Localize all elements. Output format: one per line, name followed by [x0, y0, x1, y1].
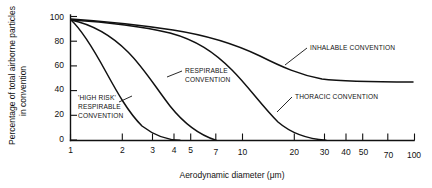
- x-tick-label-30: 30: [320, 147, 330, 157]
- y-tick-label-80: 80: [55, 36, 65, 46]
- y-tick-label-0: 0: [59, 134, 64, 144]
- curve-high-risk-respirable-convention: [71, 20, 180, 140]
- annotation-respirable-convention-line1: RESPIRABLE: [185, 67, 228, 74]
- annotation-inhalable-convention: INHALABLE CONVENTION: [310, 44, 395, 51]
- x-tick-label-50: 50: [359, 147, 369, 157]
- x-tick-label-10: 10: [238, 147, 248, 157]
- annotation-high-risk-line1: 'HIGH RISK': [78, 94, 116, 101]
- chart-figure: Percentage of total airborne particles i…: [0, 0, 432, 188]
- y-axis-ticks: [71, 17, 78, 141]
- leader-line-respirable: [167, 71, 182, 77]
- particle-convention-chart: Percentage of total airborne particles i…: [0, 0, 432, 188]
- y-tick-label-40: 40: [55, 84, 65, 94]
- x-tick-label-3: 3: [150, 145, 155, 155]
- x-tick-label-1: 1: [68, 145, 73, 155]
- annotation-high-risk-line3: CONVENTION: [78, 112, 124, 119]
- x-tick-label-7: 7: [213, 147, 218, 157]
- leader-line-thoracic: [277, 97, 292, 112]
- x-tick-label-5: 5: [188, 145, 193, 155]
- y-axis-label-line2: in convention: [18, 66, 28, 116]
- x-tick-label-70: 70: [384, 150, 394, 160]
- y-tick-label-100: 100: [50, 12, 64, 22]
- y-tick-label-60: 60: [55, 60, 65, 70]
- x-tick-label-2: 2: [120, 145, 125, 155]
- annotation-high-risk-line2: RESPIRABLE: [78, 103, 121, 110]
- x-tick-label-40: 40: [341, 147, 351, 157]
- y-tick-label-20: 20: [55, 109, 65, 119]
- y-axis-label-line1: Percentage of total airborne particles: [7, 6, 17, 145]
- x-tick-label-20: 20: [290, 147, 300, 157]
- x-axis-ticks: [71, 134, 415, 141]
- annotation-thoracic-convention: THORACIC CONVENTION: [295, 93, 378, 100]
- leader-line-inhalable: [285, 48, 307, 65]
- x-axis-label: Aerodynamic diameter (μm): [179, 170, 284, 180]
- annotation-respirable-convention-line2: CONVENTION: [185, 76, 231, 83]
- x-tick-label-4: 4: [172, 145, 177, 155]
- x-tick-label-100: 100: [407, 150, 421, 160]
